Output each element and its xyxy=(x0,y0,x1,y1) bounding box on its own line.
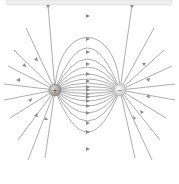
negative-sign: − xyxy=(117,87,123,95)
positive-charge: + xyxy=(49,84,61,96)
field-lines xyxy=(4,5,175,160)
positive-sign: + xyxy=(52,87,58,95)
dipole-field-diagram: Electric field lines of an electric dipo… xyxy=(0,0,179,184)
top-bar xyxy=(6,0,172,5)
negative-charge: − xyxy=(114,84,126,96)
field-lines-svg: + − xyxy=(0,0,179,184)
arrowheads xyxy=(16,5,150,151)
